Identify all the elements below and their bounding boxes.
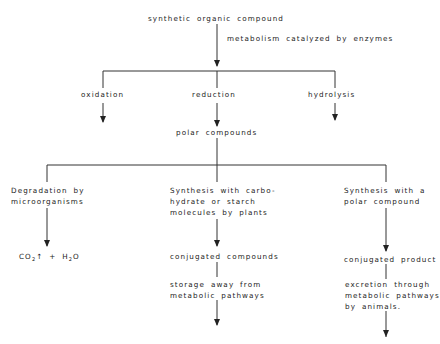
node-polar-compounds: polar compounds (176, 127, 257, 138)
node-synthesis-plants-line3: molecules by plants (170, 207, 268, 218)
node-conjugated-compounds: conjugated compounds (170, 251, 279, 262)
arrowhead-icon (214, 60, 220, 67)
node-degradation-line1: Degradation by (11, 185, 85, 196)
node-co2-h2o: CO2↑ + H2O (19, 251, 80, 265)
node-conjugated-product: conjugated product (344, 254, 436, 265)
node-hydrolysis: hydrolysis (308, 89, 355, 100)
node-reduction: reduction (192, 89, 236, 100)
node-excretion-line1: excretion through (345, 279, 430, 290)
node-synthesis-plants-line2: hydrate or starch (170, 196, 256, 207)
node-root: synthetic organic compound (148, 13, 284, 24)
node-excretion-line2: metabolic pathways (345, 290, 440, 301)
node-storage-line1: storage away from (170, 279, 261, 290)
edge-label-metabolism: metabolism catalyzed by enzymes (227, 33, 393, 44)
node-storage-line2: metabolic pathways (170, 290, 265, 301)
node-excretion-line3: by animals. (345, 301, 401, 312)
node-synthesis-plants-line1: Synthesis with carbo- (170, 185, 276, 196)
node-degradation-line2: microorganisms (11, 196, 84, 207)
node-synthesis-polar-line2: polar compound (344, 196, 420, 207)
node-oxidation: oxidation (81, 89, 124, 100)
node-synthesis-polar-line1: Synthesis with a (344, 185, 425, 196)
